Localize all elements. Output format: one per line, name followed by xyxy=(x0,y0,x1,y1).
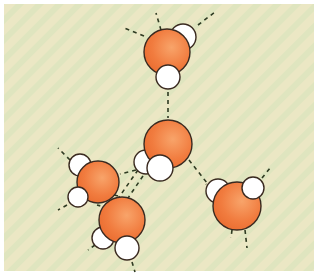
oxygen-atom xyxy=(99,197,145,243)
hydrogen-atom xyxy=(68,187,88,207)
water-molecules-diagram xyxy=(0,0,320,275)
hydrogen-atom xyxy=(156,65,180,89)
hydrogen-atom xyxy=(115,236,139,260)
hydrogen-atom xyxy=(242,177,264,199)
hydrogen-atom xyxy=(147,155,173,181)
